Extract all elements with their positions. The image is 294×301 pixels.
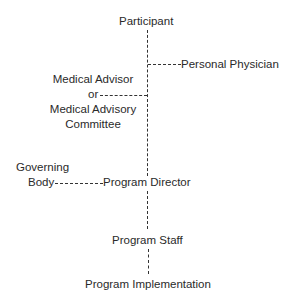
connector-participant-to-director (147, 30, 148, 176)
node-program-director: Program Director (103, 175, 191, 189)
node-program-implementation: Program Implementation (85, 277, 211, 291)
node-medical-advisor-line4: Committee (63, 117, 123, 131)
node-medical-advisor-line3: Medical Advisory (49, 102, 137, 116)
node-governing-body-line1: Governing (16, 160, 69, 174)
connector-governing-to-director (55, 183, 103, 184)
connector-to-personal-physician (148, 64, 181, 65)
node-governing-body-line2: Body (28, 175, 54, 189)
connector-director-to-staff (147, 191, 148, 229)
node-personal-physician: Personal Physician (181, 57, 279, 71)
connector-staff-to-implementation (148, 249, 149, 274)
node-program-staff: Program Staff (112, 233, 183, 247)
node-medical-advisor-line2: or (88, 87, 98, 101)
connector-to-medical-advisor (100, 95, 147, 96)
node-participant: Participant (119, 14, 173, 28)
node-medical-advisor-line1: Medical Advisor (52, 72, 134, 86)
